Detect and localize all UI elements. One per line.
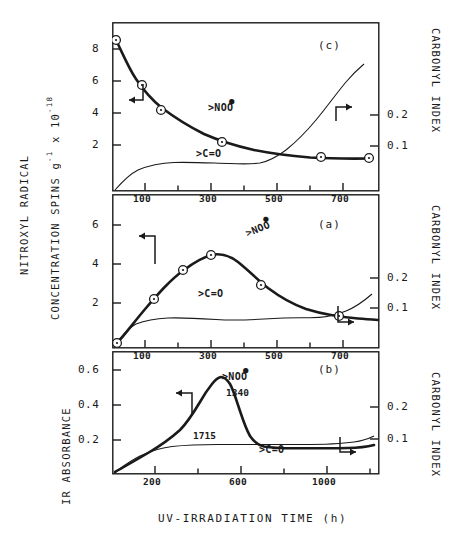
panel-b-arrow-left [176,390,192,415]
panel-a-left-tick-6: 6 [92,218,99,231]
panel-c-left-tick-6: 6 [92,74,99,87]
panel-b-left-tick-06: 0.6 [78,363,99,376]
panel-c-label-nitroxyl: >NOO● [208,102,233,113]
panel-b-label-nitroxyl: >NOO● [222,371,247,382]
panel-c-arrow-right [336,104,352,121]
panel-a-letter: (a) [318,218,341,231]
panel-a-right-tick-02: 0.2 [387,271,408,284]
left-axis-title-part-concentration: CONCENTRATION SPINS g [49,162,61,320]
panel-a-markers [113,251,344,348]
left-axis-title-sup-inverse: -1 [45,151,54,162]
panel-c-curve-carbonyl [115,64,364,190]
panel-c-right-tick-02: 0.2 [387,108,408,121]
panel-b-x-ticks [155,466,370,474]
right-axis-title-carbonyl-a: CARBONYL INDEX [430,205,442,355]
panel-b-right-tick-02: 0.2 [387,400,408,413]
panel-b-left-tick-02: 0.2 [78,433,99,446]
left-axis-title-ir-absorbance: IR ABSORBANCE [60,375,72,505]
panel-a-left-tick-2: 2 [92,296,99,309]
panel-b-label-carbonyl: >C=O [259,444,284,455]
left-axis-title-nitroxyl-line1: NITROXYL RADICAL [18,95,30,275]
panel-c-left-tick-2: 2 [92,138,99,151]
panel-a-right-ticks [370,278,378,308]
panel-b-letter: (b) [318,363,341,376]
panel-b-wavenumber-1715: 1715 [193,430,216,441]
panel-b-curve-carbonyl [115,436,374,472]
figure-root: NITROXYL RADICAL CONCENTRATION SPINS g-1… [0,0,470,541]
right-axis-title-carbonyl-b: CARBONYL INDEX [430,372,442,522]
panel-c-x-ticks [145,183,343,191]
panel-a-left-tick-4: 4 [92,257,99,270]
panel-c-label-carbonyl: >C=O [196,148,221,159]
panel-b-xtick-1000: 1000 [312,476,336,487]
panel-b-wavenumber-1340: 1340 [226,387,249,398]
panel-c-right-ticks [370,115,378,146]
panel-b-xtick-200: 200 [143,476,161,487]
panel-c-letter: (c) [318,39,341,52]
x-axis-title: UV-IRRADIATION TIME (h) [158,512,347,525]
panel-c-left-tick-4: 4 [92,106,99,119]
panel-b-xtick-600: 600 [229,476,247,487]
panel-c-right-tick-01: 0.1 [387,139,408,152]
panel-a-left-ticks [113,225,121,303]
panel-a-arrow-left [139,233,155,264]
left-axis-title-part-times: x 10 [49,113,61,151]
panel-b-right-tick-01: 0.1 [387,432,408,445]
panel-c-left-tick-8: 8 [92,42,99,55]
panel-b-left-ticks [113,370,121,440]
panel-b-right-ticks [370,407,378,439]
left-axis-title-sup-exponent: -18 [45,96,54,113]
left-axis-title-nitroxyl-line2: CONCENTRATION SPINS g-1 x 10-18 [45,40,61,320]
panel-b-left-tick-04: 0.4 [78,398,99,411]
panel-b-arrow-right [340,437,356,455]
right-axis-title-carbonyl-c: CARBONYL INDEX [430,28,442,178]
panel-c-left-ticks [113,49,121,145]
panel-a-x-ticks [145,340,343,348]
panel-a-label-carbonyl: >C=O [198,288,223,299]
panel-a-right-tick-01: 0.1 [387,301,408,314]
